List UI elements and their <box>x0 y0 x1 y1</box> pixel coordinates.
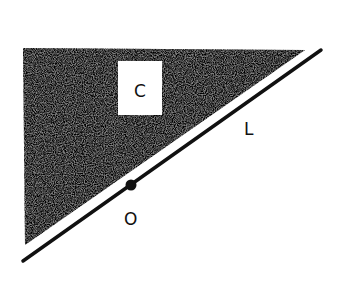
shaded-region <box>23 48 305 245</box>
diagram-canvas: C L O <box>0 0 347 288</box>
point-o <box>126 180 137 191</box>
point-label-o: O <box>124 209 137 229</box>
line-label-l: L <box>244 119 254 139</box>
region-label-c: C <box>134 81 146 101</box>
